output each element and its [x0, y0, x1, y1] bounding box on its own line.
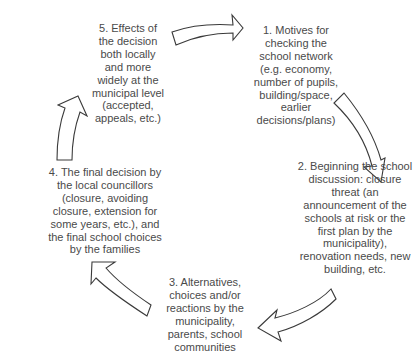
- text-line: announcement of the: [290, 199, 415, 212]
- text-line: communities: [150, 341, 260, 354]
- text-line: (accepted,: [70, 99, 186, 112]
- text-line: the local councillors: [30, 179, 180, 192]
- step-5-effects-text: 5. Effects of the decision both locally …: [70, 22, 186, 125]
- text-line: discussion: closure: [290, 173, 415, 186]
- text-line: the final school choices: [30, 231, 180, 244]
- text-line: the decision: [70, 35, 186, 48]
- text-line: closure, extension for: [30, 205, 180, 218]
- text-line: some years, etc.), and: [30, 218, 180, 231]
- text-line: choices and/or: [150, 289, 260, 302]
- text-line: 3. Alternatives,: [150, 276, 260, 289]
- text-line: first plan by the: [290, 225, 415, 238]
- text-line: decisions/plans): [238, 114, 354, 127]
- text-line: municipal level: [70, 87, 186, 100]
- text-line: building, etc.: [290, 263, 415, 276]
- text-line: 5. Effects of: [70, 22, 186, 35]
- text-line: municipality,: [150, 315, 260, 328]
- step-4-final-decision-text: 4. The final decision by the local counc…: [30, 166, 180, 256]
- text-line: (closure, avoiding: [30, 192, 180, 205]
- text-line: appeals, etc.): [70, 112, 186, 125]
- text-line: number of pupils,: [238, 76, 354, 89]
- text-line: school network: [238, 50, 354, 63]
- step-2-beginning-text: 2. Beginning the school discussion: clos…: [290, 160, 415, 276]
- text-line: parents, school: [150, 328, 260, 341]
- text-line: 2. Beginning the school: [290, 160, 415, 173]
- text-line: reactions by the: [150, 302, 260, 315]
- step-3-alternatives-text: 3. Alternatives, choices and/or reaction…: [150, 276, 260, 353]
- text-line: earlier: [238, 101, 354, 114]
- text-line: checking the: [238, 37, 354, 50]
- arrow-left-icon: [258, 289, 336, 341]
- text-line: 1. Motives for: [238, 24, 354, 37]
- text-line: both locally: [70, 48, 186, 61]
- step-1-motives-text: 1. Motives for checking the school netwo…: [238, 24, 354, 127]
- text-line: building/space,: [238, 89, 354, 102]
- text-line: and more: [70, 61, 186, 74]
- text-line: municipality),: [290, 237, 415, 250]
- arrow-up-left-icon: [91, 262, 151, 316]
- text-line: renovation needs, new: [290, 250, 415, 263]
- text-line: 4. The final decision by: [30, 166, 180, 179]
- text-line: widely at the: [70, 74, 186, 87]
- text-line: schools at risk or the: [290, 212, 415, 225]
- text-line: by the families: [30, 243, 180, 256]
- text-line: threat (an: [290, 186, 415, 199]
- text-line: (e.g. economy,: [238, 63, 354, 76]
